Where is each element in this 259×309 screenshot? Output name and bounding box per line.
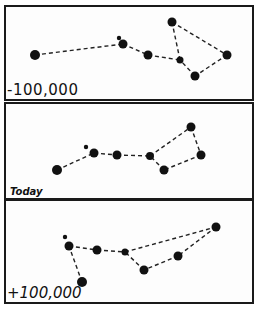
star-dot [117,36,121,40]
star-dot [140,266,149,275]
star-dot [119,40,128,49]
constellation-stars [30,18,232,288]
star-dot [187,123,196,132]
star-dot [113,151,122,160]
star-dot [65,242,74,251]
constellation-line [117,155,150,156]
star-dot [90,149,99,158]
constellation-line [150,127,191,156]
star-dot [63,235,67,239]
star-dot [52,165,62,175]
star-dot [174,252,183,261]
constellation-line [144,256,178,270]
star-dot [84,145,88,149]
constellation-line [172,22,180,60]
star-dot [197,151,206,160]
star-dot [122,249,129,256]
constellation-line [57,153,94,170]
star-dot [168,18,177,27]
star-dot [223,51,232,60]
constellation-line [148,55,180,60]
constellation-line [164,155,201,170]
star-dot [146,152,154,160]
constellation-layer [0,0,259,309]
constellation-line [35,44,123,55]
star-dot [30,50,40,60]
star-dot [77,277,87,287]
constellation-line [172,22,227,55]
star-dot [93,246,102,255]
star-dot [177,57,184,64]
star-dot [212,223,221,232]
star-dot [191,72,200,81]
constellation-line [125,227,216,252]
constellation-line [178,227,216,256]
constellation-line [195,55,227,76]
star-dot [144,51,153,60]
star-dot [160,166,169,175]
constellation-line [69,246,82,282]
